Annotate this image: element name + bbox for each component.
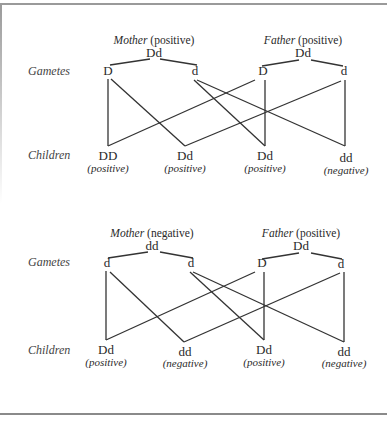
cross-1-father-gamete-1: D (258, 63, 267, 78)
cross-1-lines (108, 79, 345, 146)
cross-2-child-3-phenotype: (positive) (243, 356, 285, 369)
cross-1-mother-gamete-1: D (103, 63, 112, 78)
cross-1-child-2-phenotype: (positive) (164, 162, 206, 175)
cross-2-father-genotype: Dd (293, 238, 309, 253)
cross-1-mother-role: Mother (113, 34, 148, 46)
cross-1-father-role: Father (263, 34, 296, 46)
cross-1-child-3-genotype: Dd (257, 148, 273, 163)
cross-2-father-gamete-2: d (338, 256, 345, 271)
cross-2-gametes-label: Gametes (28, 255, 70, 269)
cross-1-child-1-phenotype: (positive) (87, 162, 129, 175)
cross-2-mother-gamete-1: d (104, 255, 111, 270)
cross-2: Mother (negative) dd Father (positive) D… (28, 227, 367, 370)
cross-2-mother-role: Mother (109, 227, 144, 239)
cross-2-father-role: Father (261, 227, 294, 239)
cross-2-child-4-phenotype: (negative) (322, 357, 367, 370)
cross-2-children-label: Children (28, 343, 70, 357)
cross-1-child-3-phenotype: (positive) (244, 162, 286, 175)
cross-2-mother-genotype: dd (146, 238, 160, 253)
cross-1: Mother (positive) Dd Father (positive) D… (28, 34, 369, 177)
cross-1-father-genotype: Dd (295, 45, 311, 60)
cross-1-gametes-label: Gametes (28, 64, 70, 78)
inheritance-diagram: Mother (positive) Dd Father (positive) D… (0, 0, 387, 421)
cross-1-child-4-genotype: dd (340, 150, 354, 165)
cross-2-child-1-genotype: Dd (98, 342, 114, 357)
cross-2-father-gamete-1: D (257, 255, 266, 270)
cross-1-children-label: Children (28, 148, 70, 162)
cross-1-child-2-genotype: Dd (177, 148, 193, 163)
cross-2-brackets (108, 252, 342, 259)
cross-2-child-1-phenotype: (positive) (85, 356, 127, 369)
cross-1-mother-gamete-2: d (192, 63, 199, 78)
cross-2-lines (106, 271, 344, 342)
cross-1-father-gamete-2: d (341, 63, 348, 78)
cross-2-child-3-genotype: Dd (256, 342, 272, 357)
cross-1-mother-genotype: Dd (146, 45, 162, 60)
cross-2-child-2-phenotype: (negative) (163, 357, 208, 370)
cross-2-mother-gamete-2: d (188, 255, 195, 270)
cross-1-child-1-genotype: DD (99, 148, 118, 163)
cross-1-brackets (110, 59, 343, 66)
cross-1-child-4-phenotype: (negative) (324, 164, 369, 177)
